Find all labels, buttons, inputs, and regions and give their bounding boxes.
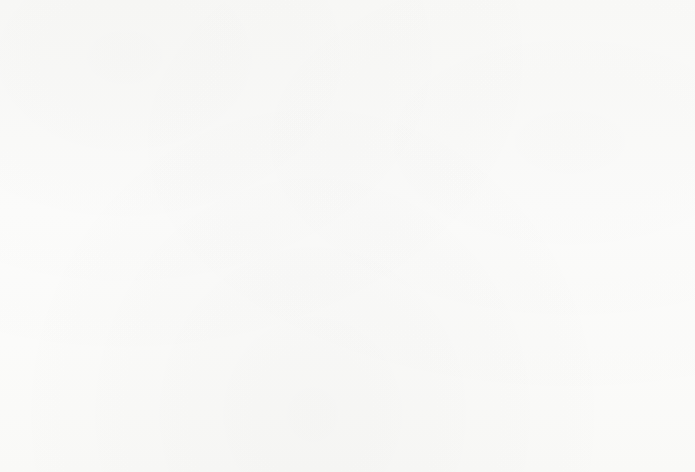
data-point-label: 12.8 [275, 347, 292, 357]
figure-panel-grid: Quality of life intervention comparison … [0, 0, 695, 472]
data-point-marker [73, 331, 84, 342]
data-point-label: 11.9 [413, 65, 429, 75]
legend-item-intervention: intervention [460, 269, 536, 279]
legend-label-intervention: intervention [489, 29, 537, 39]
legend-label-intervention: intervention [134, 266, 182, 276]
y-axis-tick-label: 11 [12, 354, 36, 364]
data-point-marker [177, 155, 188, 166]
legend-item-comparison: comparison [206, 266, 280, 276]
x-axis-tick-label: pre-test [411, 436, 440, 446]
data-point-marker [177, 303, 188, 314]
data-point-marker [420, 305, 430, 315]
data-point-marker [519, 299, 529, 309]
legend-label-comparison: comparison [581, 29, 627, 39]
y-axis-tick-label: 9 [360, 130, 384, 140]
y-axis-tick-label: 18 [360, 334, 384, 344]
x-axis-tick-label: 6-month follow-up [488, 182, 560, 192]
data-point-label: 12.1 [514, 60, 531, 70]
series-layer [390, 291, 658, 429]
data-point-marker [419, 82, 430, 93]
x-axis-line [42, 175, 322, 176]
legend-item-intervention: intervention [461, 29, 537, 39]
chart-panel-optimism: Optimism intervention comparison 1012141… [348, 236, 695, 472]
data-point-label: 20.7 [413, 287, 430, 297]
data-point-label: 9.2 [415, 110, 427, 120]
chart-title: Affective well-being [0, 246, 347, 258]
data-point-label: 8.9 [70, 405, 82, 415]
y-axis-tick-label: 46 [12, 103, 36, 113]
legend-label-intervention: intervention [488, 269, 536, 279]
data-point-label: 21.6 [637, 299, 654, 309]
legend-key-dashed-circle-icon [553, 30, 579, 39]
data-point-marker [281, 67, 291, 77]
data-point-label: 41.4 [279, 130, 296, 140]
data-point-label: 46 [72, 119, 82, 129]
series-line-comparison [425, 333, 623, 389]
data-point-label: 12.8 [279, 308, 296, 318]
legend-key-solid-square-icon [106, 267, 132, 276]
series-line-intervention [78, 327, 285, 391]
x-axis-tick-label: pre-test [64, 433, 93, 443]
x-axis-tick-label: 6-month follow-up [146, 182, 218, 192]
data-point-marker [618, 296, 628, 306]
data-point-marker [618, 115, 629, 126]
y-axis-tick-label: 9 [12, 384, 36, 394]
y-axis-tick-label: 42 [12, 142, 36, 152]
data-point-marker [419, 374, 430, 385]
data-point-label: 7.7 [516, 135, 528, 145]
y-axis-tick-label: 7 [360, 163, 384, 173]
x-axis-line [390, 175, 658, 176]
y-axis-tick-label: 40 [12, 162, 36, 172]
y-axis-tick-label: 12 [360, 398, 384, 408]
chart-legend: intervention comparison [62, 266, 324, 276]
legend-item-comparison: comparison [554, 269, 628, 279]
y-axis-tick-label: 50 [12, 63, 36, 73]
legend-label-comparison: comparison [290, 47, 336, 57]
legend-item-comparison: comparison [553, 29, 627, 39]
plot-area: 10121416182022pre-test6-month follow-up1… [390, 291, 658, 429]
x-axis-tick-label: pre-test [411, 182, 440, 192]
data-point-label: 18.6 [541, 326, 558, 336]
y-axis-tick-label: 44 [12, 122, 36, 132]
legend-label-intervention: intervention [104, 47, 152, 57]
x-axis-tick-label: 6-month follow-up [146, 433, 218, 443]
data-point-marker [519, 327, 530, 338]
data-point-marker [519, 78, 530, 89]
x-axis-line [42, 426, 322, 427]
y-axis-tick-label: 11 [360, 97, 384, 107]
chart-legend: intervention comparison [426, 269, 662, 279]
plot-area: 791113pre-test6-month follow-up1-year fo… [390, 62, 658, 175]
data-point-marker [177, 65, 187, 75]
data-point-label: 12.5 [64, 312, 81, 322]
x-axis-tick-label: 6-month follow-up [488, 436, 560, 446]
x-axis-tick-label: pre-test [64, 182, 93, 192]
data-point-marker [280, 148, 291, 159]
series-line-comparison [425, 84, 623, 121]
data-point-marker [420, 127, 430, 137]
data-point-marker [618, 383, 629, 394]
series-layer [390, 62, 658, 175]
data-point-label: 13.1 [172, 341, 189, 351]
chart-title: Quality of life [0, 27, 347, 39]
y-axis-tick-label: 10 [360, 420, 384, 430]
data-point-label: 13.4 [639, 388, 656, 398]
legend-key-solid-square-icon [460, 270, 486, 279]
y-axis-tick-label: 16 [360, 356, 384, 366]
data-point-label: 49.8 [172, 47, 189, 57]
y-axis-tick-label: 7 [12, 415, 36, 425]
series-layer [42, 62, 322, 175]
data-point-marker [519, 152, 529, 162]
legend-label-comparison: comparison [582, 269, 628, 279]
chart-legend: intervention comparison [76, 47, 336, 57]
x-axis-tick-label: 1-year follow-up [591, 182, 655, 192]
plot-area: 404244464850pre-test6-month follow-up1-y… [42, 62, 322, 175]
plot-area: 79111315pre-test6-month follow-up1-year … [42, 292, 322, 426]
legend-item-intervention: intervention [76, 47, 152, 57]
chart-panel-quality-of-life: Quality of life intervention comparison … [0, 0, 347, 236]
y-axis-tick-label: 13 [12, 324, 36, 334]
data-point-label: 8.2 [619, 126, 631, 136]
data-point-label: 40.7 [168, 139, 185, 149]
y-axis-tick-label: 14 [360, 377, 384, 387]
x-axis-tick-label: 1-year follow-up [591, 436, 655, 446]
chart-title: Optimism [348, 250, 695, 262]
